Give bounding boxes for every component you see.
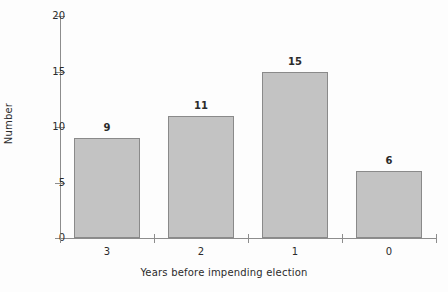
x-tick-mark — [60, 234, 61, 243]
bar — [262, 72, 328, 239]
y-tick-label: 0 — [41, 233, 65, 243]
y-tick-label: 20 — [41, 11, 65, 21]
x-tick-mark — [154, 234, 155, 243]
x-tick-label: 2 — [181, 246, 221, 257]
x-tick-mark — [248, 234, 249, 243]
bar — [74, 138, 140, 238]
x-tick-mark — [436, 234, 437, 243]
x-tick-mark — [342, 234, 343, 243]
bar-value-label: 15 — [275, 56, 315, 67]
y-tick-label: 5 — [41, 178, 65, 188]
x-tick-label: 1 — [275, 246, 315, 257]
bar — [168, 116, 234, 238]
x-tick-label: 3 — [87, 246, 127, 257]
bar-value-label: 11 — [181, 100, 221, 111]
bar — [356, 171, 422, 238]
bar-value-label: 9 — [87, 122, 127, 133]
y-axis-title: Number — [3, 94, 14, 154]
bar-chart: Number 05101520 3210 911156 Years before… — [0, 0, 448, 292]
bar-value-label: 6 — [369, 155, 409, 166]
x-tick-label: 0 — [369, 246, 409, 257]
x-axis-title: Years before impending election — [0, 267, 448, 278]
y-tick-label: 10 — [41, 122, 65, 132]
y-tick-label: 15 — [41, 67, 65, 77]
